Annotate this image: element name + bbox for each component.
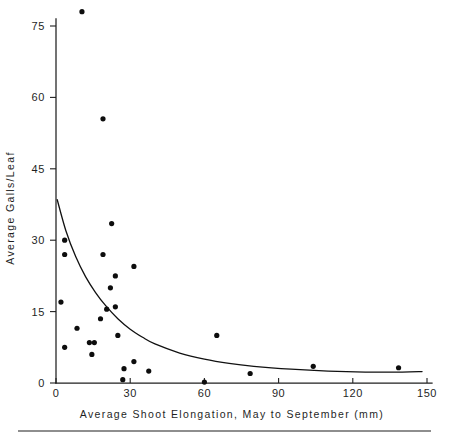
data-point: [104, 307, 109, 312]
x-axis-title: Average Shoot Elongation, May to Septemb…: [80, 408, 384, 420]
data-points: [58, 9, 401, 385]
data-point: [121, 366, 126, 371]
data-point: [108, 285, 113, 290]
y-tick-label-15: 15: [32, 306, 45, 318]
data-point: [74, 326, 79, 331]
data-point: [109, 221, 114, 226]
y-tick-label-0: 0: [38, 377, 45, 389]
data-point: [79, 9, 84, 14]
x-tick-label-30: 30: [123, 387, 136, 399]
y-axis-ticks: [50, 26, 56, 383]
data-point: [62, 345, 67, 350]
y-tick-label-60: 60: [32, 91, 45, 103]
data-point: [248, 371, 253, 376]
scatter-plot: 0306090120150 01530456075 Average Shoot …: [0, 0, 449, 438]
x-tick-label-150: 150: [417, 387, 437, 399]
x-tick-label-60: 60: [198, 387, 211, 399]
x-axis-ticks: [56, 378, 427, 383]
y-axis-tick-labels: 01530456075: [32, 20, 45, 389]
x-tick-label-90: 90: [272, 387, 285, 399]
data-point: [311, 364, 316, 369]
data-point: [62, 238, 67, 243]
data-point: [87, 340, 92, 345]
x-axis-tick-labels: 0306090120150: [53, 387, 437, 399]
data-point: [62, 252, 67, 257]
axes-group: [56, 19, 432, 383]
y-axis-title: Average Galls/Leaf: [4, 151, 16, 264]
x-tick-label-0: 0: [53, 387, 60, 399]
data-point: [113, 273, 118, 278]
data-point: [58, 299, 63, 304]
data-point: [214, 333, 219, 338]
data-point: [396, 365, 401, 370]
y-tick-label-30: 30: [32, 234, 45, 246]
data-point: [131, 264, 136, 269]
data-point: [92, 340, 97, 345]
data-point: [120, 377, 125, 382]
data-point: [146, 369, 151, 374]
data-point: [115, 333, 120, 338]
y-tick-label-75: 75: [32, 20, 45, 32]
data-point: [98, 316, 103, 321]
figure-container: 0306090120150 01530456075 Average Shoot …: [0, 0, 449, 438]
data-point: [202, 379, 207, 384]
data-point: [100, 252, 105, 257]
x-tick-label-120: 120: [343, 387, 363, 399]
data-point: [131, 359, 136, 364]
data-point: [113, 304, 118, 309]
data-point: [100, 116, 105, 121]
data-point: [89, 352, 94, 357]
y-tick-label-45: 45: [32, 163, 45, 175]
